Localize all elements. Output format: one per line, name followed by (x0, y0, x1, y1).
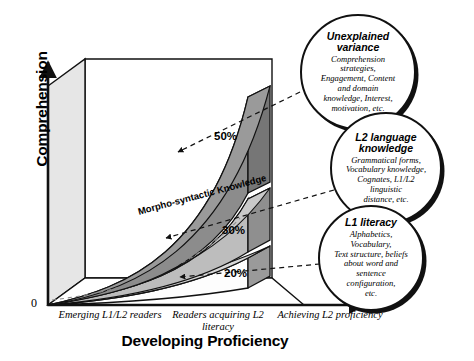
bubble-title: L1 literacy (345, 217, 397, 229)
band-percent-bottom: 20% (224, 267, 247, 279)
bubble-body: Comprehension strategies, Engagement, Co… (321, 55, 395, 114)
x-tick-acquiring-literacy: Readers acquiring L2 literacy (158, 309, 278, 333)
x-axis-title: Developing Proficiency (0, 332, 410, 350)
y-axis-title: Comprehension (33, 9, 51, 209)
bubble-body: Grammatical forms, Vocabulary knowledge,… (346, 156, 426, 205)
band-percent-top: 50% (214, 130, 237, 142)
diagram-figure: Comprehension Developing Proficiency 0 E… (0, 0, 474, 361)
box-left-wall (48, 59, 85, 305)
bubble-body: Alphabetics, Vocabulary, Text structure,… (334, 230, 408, 299)
origin-label: 0 (31, 296, 37, 311)
band-percent-middle: 30% (222, 224, 245, 236)
bubble-l1-literacy: L1 literacy Alphabetics, Vocabulary, Tex… (318, 205, 424, 311)
x-tick-emerging-readers: Emerging L1/L2 readers (52, 309, 168, 321)
bubble-title: Unexplained variance (327, 31, 389, 54)
bubble-title: L2 language knowledge (355, 132, 416, 155)
